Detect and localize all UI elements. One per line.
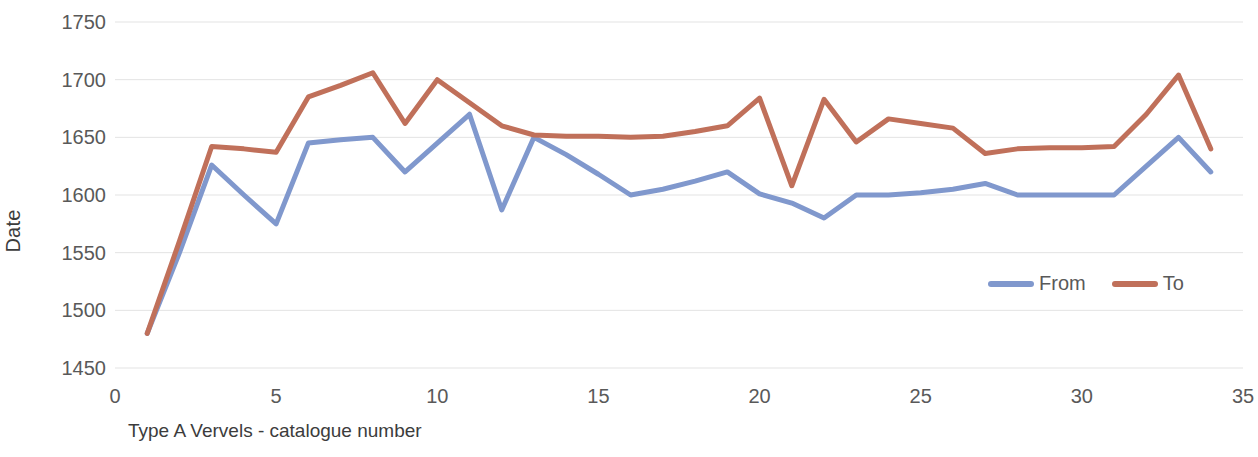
chart-legend: FromTo	[988, 272, 1184, 295]
legend-swatch-icon	[1112, 281, 1158, 287]
x-axis-title: Type A Vervels - catalogue number	[128, 420, 422, 442]
chart-figure: Date 1450150015501600165017001750 051015…	[0, 0, 1258, 457]
legend-swatch-icon	[988, 281, 1034, 287]
legend-label: From	[1039, 272, 1086, 295]
plot-area	[0, 0, 1258, 457]
legend-item-to[interactable]: To	[1112, 272, 1184, 295]
legend-label: To	[1163, 272, 1184, 295]
legend-item-from[interactable]: From	[988, 272, 1086, 295]
